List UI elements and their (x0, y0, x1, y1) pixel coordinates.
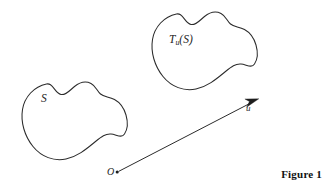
translated-region-outline (152, 12, 257, 89)
translated-region-label-argument: (S) (179, 33, 192, 45)
translation-vector-shaft (119, 103, 252, 172)
figure-canvas (0, 0, 328, 190)
translation-vector-label: u (246, 104, 251, 113)
origin-point-dot (116, 170, 119, 173)
figure-caption: Figure 1 (281, 168, 322, 180)
origin-point-label: O (107, 167, 114, 177)
figure-container: S Tu(S) u O Figure 1 (0, 0, 328, 190)
source-region-outline (22, 82, 127, 159)
source-region-label: S (41, 93, 47, 105)
translated-region-label: Tu(S) (169, 34, 193, 47)
